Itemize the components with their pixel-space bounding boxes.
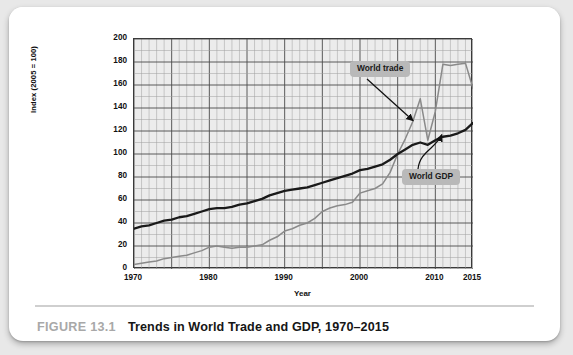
x-tick-1970: 1970 [113, 273, 153, 282]
y-tick-100: 100 [101, 149, 127, 157]
caption-divider [35, 305, 534, 307]
annotation-world-trade: World trade [350, 61, 410, 77]
y-tick-200: 200 [101, 34, 127, 42]
y-tick-180: 180 [101, 57, 127, 65]
annotation-world-gdp: World GDP [402, 169, 460, 185]
y-tick-20: 20 [101, 241, 127, 249]
y-tick-160: 160 [101, 80, 127, 88]
figure-title: Trends in World Trade and GDP, 1970–2015 [128, 320, 389, 334]
y-axis-title: Index (2005 = 100) [29, 20, 38, 140]
plot-area [133, 38, 472, 268]
y-tick-120: 120 [101, 126, 127, 134]
x-tick-1980: 1980 [188, 273, 228, 282]
figure-caption: FIGURE 13.1 Trends in World Trade and GD… [37, 317, 537, 337]
x-tick-2015: 2015 [452, 273, 492, 282]
y-tick-40: 40 [101, 218, 127, 226]
x-axis-title: Year [133, 289, 472, 298]
chart-area: Index (2005 = 100) 020406080100120140160… [9, 7, 560, 295]
x-tick-2000: 2000 [339, 273, 379, 282]
y-tick-140: 140 [101, 103, 127, 111]
x-tick-1990: 1990 [264, 273, 304, 282]
figure-number: FIGURE 13.1 [37, 320, 116, 334]
x-tick-2010: 2010 [414, 273, 454, 282]
y-tick-0: 0 [101, 264, 127, 272]
y-tick-60: 60 [101, 195, 127, 203]
figure-card: Index (2005 = 100) 020406080100120140160… [9, 7, 560, 341]
data-series-lines [134, 39, 473, 269]
y-tick-80: 80 [101, 172, 127, 180]
